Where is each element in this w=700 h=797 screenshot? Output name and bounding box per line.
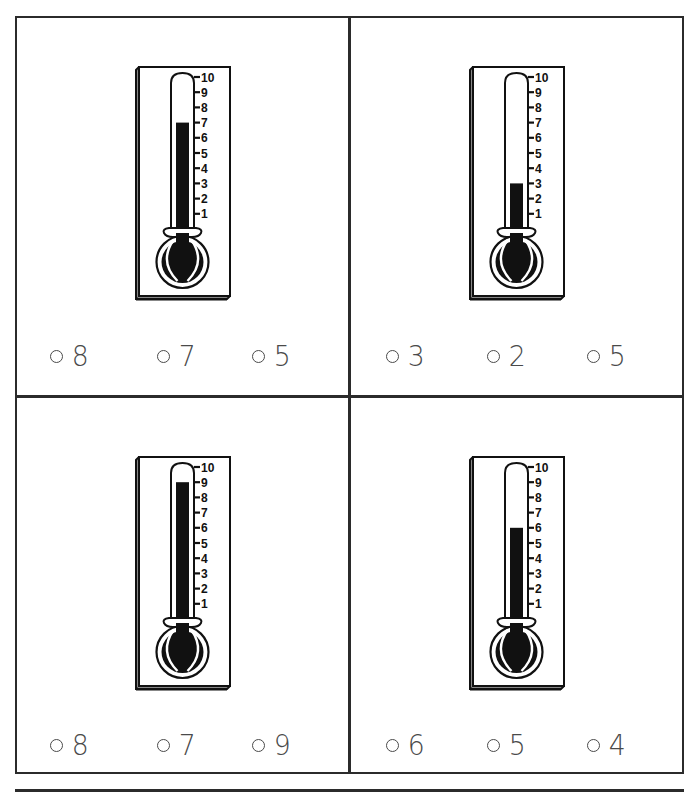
tick-label: 5: [201, 537, 208, 551]
answer-label: 5: [274, 342, 291, 371]
radio-bubble-icon[interactable]: [587, 739, 600, 752]
answer-label: 4: [609, 731, 626, 760]
tick-label: 4: [535, 162, 542, 176]
problem-bottom-left: 10987654321879: [15, 397, 349, 776]
tick-label: 8: [535, 491, 542, 505]
tick-label: 9: [535, 476, 542, 490]
answer-label: 8: [72, 731, 89, 760]
tick-label: 4: [535, 552, 542, 566]
tick-label: 7: [535, 116, 542, 130]
answer-option-4[interactable]: 4: [587, 725, 626, 765]
answer-label: 6: [408, 731, 425, 760]
thermometer: 10987654321: [469, 63, 569, 307]
tick-label: 2: [535, 192, 542, 206]
answer-option-5[interactable]: 5: [487, 725, 526, 765]
answer-option-5[interactable]: 5: [252, 336, 291, 376]
tick-label: 4: [201, 162, 208, 176]
tick-label: 1: [535, 207, 542, 221]
tick-label: 9: [201, 476, 208, 490]
answer-option-9[interactable]: 9: [252, 725, 291, 765]
answer-option-7[interactable]: 7: [157, 725, 196, 765]
tick-label: 3: [201, 177, 208, 191]
tick-label: 9: [535, 86, 542, 100]
tick-label: 6: [201, 131, 208, 145]
answer-options: 879: [15, 725, 349, 765]
radio-bubble-icon[interactable]: [386, 739, 399, 752]
radio-bubble-icon[interactable]: [386, 350, 399, 363]
tick-label: 5: [201, 147, 208, 161]
tick-label: 3: [535, 567, 542, 581]
answer-option-5[interactable]: 5: [587, 336, 626, 376]
answer-label: 3: [408, 342, 425, 371]
tick-label: 5: [535, 147, 542, 161]
radio-bubble-icon[interactable]: [50, 350, 63, 363]
footer-rule: [15, 789, 684, 792]
tick-label: 7: [201, 116, 208, 130]
answer-label: 7: [179, 342, 196, 371]
radio-bubble-icon[interactable]: [157, 350, 170, 363]
answer-label: 9: [274, 731, 291, 760]
problem-bottom-right: 10987654321654: [350, 397, 684, 776]
thermometer-icon: 10987654321: [469, 63, 569, 303]
tick-label: 1: [201, 207, 208, 221]
thermometer: 10987654321: [469, 453, 569, 697]
radio-bubble-icon[interactable]: [487, 739, 500, 752]
problem-top-left: 10987654321875: [15, 16, 349, 395]
answer-options: 325: [350, 336, 684, 376]
answer-option-6[interactable]: 6: [386, 725, 425, 765]
tick-label: 1: [535, 597, 542, 611]
tick-label: 2: [535, 582, 542, 596]
answer-label: 5: [609, 342, 626, 371]
tick-label: 4: [201, 552, 208, 566]
tick-label: 6: [535, 131, 542, 145]
tick-label: 3: [535, 177, 542, 191]
answer-label: 2: [509, 342, 526, 371]
tick-label: 2: [201, 582, 208, 596]
tick-label: 6: [201, 521, 208, 535]
radio-bubble-icon[interactable]: [587, 350, 600, 363]
radio-bubble-icon[interactable]: [487, 350, 500, 363]
tick-label: 9: [201, 86, 208, 100]
tick-label: 10: [201, 461, 215, 475]
answer-options: 654: [350, 725, 684, 765]
thermometer-icon: 10987654321: [135, 63, 235, 303]
tick-label: 10: [535, 461, 549, 475]
answer-label: 5: [509, 731, 526, 760]
radio-bubble-icon[interactable]: [50, 739, 63, 752]
thermometer-icon: 10987654321: [469, 453, 569, 693]
thermometer: 10987654321: [135, 453, 235, 697]
answer-option-2[interactable]: 2: [487, 336, 526, 376]
radio-bubble-icon[interactable]: [252, 739, 265, 752]
tick-label: 6: [535, 521, 542, 535]
tick-label: 2: [201, 192, 208, 206]
answer-option-3[interactable]: 3: [386, 336, 425, 376]
radio-bubble-icon[interactable]: [252, 350, 265, 363]
tick-label: 3: [201, 567, 208, 581]
answer-options: 875: [15, 336, 349, 376]
tick-label: 8: [201, 101, 208, 115]
problem-top-right: 10987654321325: [350, 16, 684, 395]
tick-label: 7: [535, 506, 542, 520]
tick-label: 10: [535, 71, 549, 85]
answer-option-8[interactable]: 8: [50, 725, 89, 765]
tick-label: 8: [535, 101, 542, 115]
tick-label: 10: [201, 71, 215, 85]
answer-label: 8: [72, 342, 89, 371]
tick-label: 5: [535, 537, 542, 551]
answer-option-8[interactable]: 8: [50, 336, 89, 376]
thermometer-icon: 10987654321: [135, 453, 235, 693]
thermometer: 10987654321: [135, 63, 235, 307]
radio-bubble-icon[interactable]: [157, 739, 170, 752]
tick-label: 1: [201, 597, 208, 611]
answer-option-7[interactable]: 7: [157, 336, 196, 376]
tick-label: 7: [201, 506, 208, 520]
answer-label: 7: [179, 731, 196, 760]
tick-label: 8: [201, 491, 208, 505]
